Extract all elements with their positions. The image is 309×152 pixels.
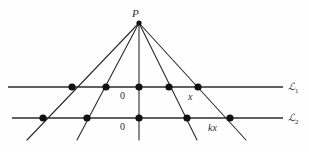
ray-right [139,23,197,140]
apex-point-P [136,20,141,25]
dot-L1-x [194,83,201,90]
dot-L2-kx [226,114,233,121]
dot-L1-1 [68,83,75,90]
dot-L2-4 [183,114,190,121]
line-label-L2: ℒ2 [288,113,299,126]
dot-L2-1 [39,114,46,121]
origin-label-line2: 0 [120,122,125,132]
apex-label-P: P [132,8,139,19]
parallel-lines-group [8,87,283,118]
dot-L2-2 [83,114,90,121]
line-label-L1-name: ℒ [288,81,295,92]
point-label-x: x [188,92,192,102]
point-label-kx: kx [208,123,217,133]
dot-L2-origin [135,114,142,121]
ray-left [77,23,139,140]
line-label-L1-sub: 1 [295,87,299,95]
origin-label-line1: 0 [120,91,125,101]
line-label-L2-sub: 2 [295,118,299,126]
dot-L1-origin [135,83,142,90]
dot-L1-2 [102,83,109,90]
dot-L1-4 [165,83,172,90]
geometry-figure: P 0 0 x kx ℒ1 ℒ2 [0,0,309,152]
ray-far-right [139,23,246,140]
line-label-L2-name: ℒ [288,112,295,123]
figure-canvas [0,0,309,152]
line-label-L1: ℒ1 [288,82,299,95]
